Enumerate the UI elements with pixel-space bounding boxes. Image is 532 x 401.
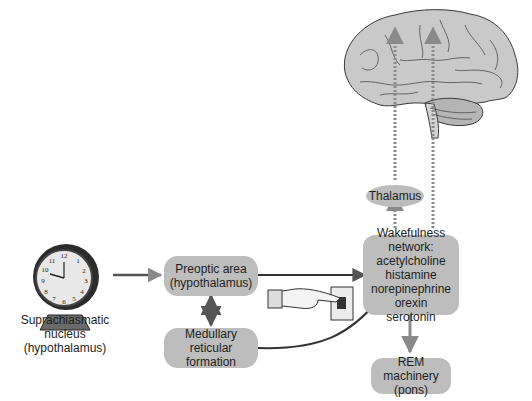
scn-label-line1: Suprachiasmatic nucleus: [0, 313, 130, 341]
thalamus-label: Thalamus: [369, 189, 422, 203]
diagram-canvas: 1212 345 678 91011 Suprachiasmatic nucle…: [0, 0, 532, 401]
rem-line1: REM machinery: [371, 355, 451, 383]
wakefulness-item: acetylcholine: [376, 254, 445, 268]
preoptic-line2: (hypothalamus): [170, 276, 253, 290]
wakefulness-item: norepinephrine: [371, 282, 451, 296]
wakefulness-item: orexin: [395, 296, 428, 310]
scn-label: Suprachiasmatic nucleus (hypothalamus): [0, 313, 130, 355]
wakefulness-item: serotonin: [386, 310, 435, 324]
node-wakefulness-network: Wakefulness network: acetylcholine hista…: [363, 235, 459, 315]
node-medullary-reticular-formation: Medullary reticular formation: [164, 328, 258, 368]
node-thalamus: Thalamus: [366, 185, 424, 207]
medullary-line1: Medullary: [185, 327, 237, 341]
node-rem-machinery: REM machinery (pons): [371, 358, 451, 394]
scn-label-line2: (hypothalamus): [0, 341, 130, 355]
rem-line2: (pons): [394, 383, 428, 397]
node-preoptic-area: Preoptic area (hypothalamus): [164, 256, 258, 296]
preoptic-line1: Preoptic area: [175, 262, 246, 276]
wakefulness-heading: Wakefulness network:: [363, 226, 459, 254]
wakefulness-item: histamine: [385, 268, 436, 282]
medullary-line2: reticular formation: [164, 341, 258, 369]
